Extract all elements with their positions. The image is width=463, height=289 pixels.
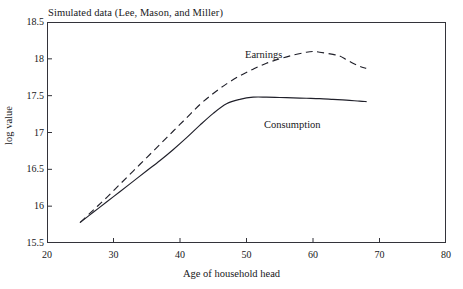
y-axis-tick-marks (47, 59, 52, 206)
x-axis-title: Age of household head (0, 268, 463, 279)
x-tick-label: 70 (360, 250, 400, 260)
y-tick-label: 18.5 (10, 17, 44, 27)
series-label-consumption: Consumption (264, 119, 321, 130)
x-tick-label: 50 (227, 250, 267, 260)
series-label-earnings: Earnings (245, 49, 282, 60)
series-line-consumption (80, 97, 366, 222)
y-tick-label: 16 (10, 201, 44, 211)
x-tick-label: 80 (426, 250, 463, 260)
chart-title: Simulated data (Lee, Mason, and Miller) (48, 7, 223, 18)
series-line-earnings (80, 51, 366, 222)
x-tick-label: 60 (293, 250, 333, 260)
x-axis-tick-marks (114, 238, 380, 243)
y-axis-title: log value (3, 91, 14, 161)
x-tick-label: 40 (160, 250, 200, 260)
y-tick-label: 17 (10, 128, 44, 138)
x-axis-tick-labels: 20304050607080 (0, 250, 463, 264)
chart-figure: Simulated data (Lee, Mason, and Miller) … (0, 0, 463, 289)
x-tick-label: 30 (94, 250, 134, 260)
y-tick-label: 17.5 (10, 91, 44, 101)
x-tick-label: 20 (27, 250, 67, 260)
y-tick-label: 15.5 (10, 238, 44, 248)
y-tick-label: 18 (10, 54, 44, 64)
y-tick-label: 16.5 (10, 164, 44, 174)
